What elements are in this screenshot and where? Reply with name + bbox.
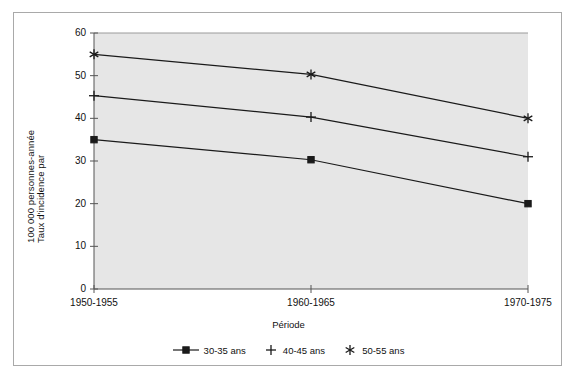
x-tick-label: 1960-1965 — [271, 297, 351, 308]
x-tick-label: 1970-1975 — [488, 297, 568, 308]
figure-frame: 0102030405060 Taux d'incidence par 100 0… — [13, 12, 562, 366]
y-axis-title-line-2: 100 000 personnes-année — [25, 130, 36, 243]
plus-marker-icon — [264, 343, 278, 357]
y-tick-label: 30 — [60, 156, 86, 166]
y-tick-label: 50 — [60, 71, 86, 81]
asterisk-marker-icon — [343, 343, 357, 357]
square-marker-icon — [173, 343, 199, 357]
y-tick-label: 10 — [60, 241, 86, 251]
y-axis-title: Taux d'incidence par 100 000 personnes-a… — [36, 103, 54, 243]
legend-item[interactable]: 40-45 ans — [264, 343, 325, 357]
y-tick-label: 40 — [60, 113, 86, 123]
chart-legend: 30-35 ans40-45 ans50-55 ans — [14, 343, 563, 357]
y-axis-tick-labels: 0102030405060 — [56, 13, 86, 313]
legend-label: 30-35 ans — [204, 345, 246, 356]
legend-label: 50-55 ans — [362, 345, 404, 356]
legend-item[interactable]: 30-35 ans — [173, 343, 246, 357]
y-axis-title-line-1: Taux d'incidence par — [35, 155, 46, 243]
y-tick-label: 60 — [60, 28, 86, 38]
chart-plot-area — [14, 13, 563, 367]
y-tick-label: 20 — [60, 199, 86, 209]
x-axis-title: Période — [14, 319, 563, 330]
legend-label: 40-45 ans — [283, 345, 325, 356]
legend-item[interactable]: 50-55 ans — [343, 343, 404, 357]
x-tick-label: 1950-1955 — [54, 297, 134, 308]
y-tick-label: 0 — [60, 284, 86, 294]
